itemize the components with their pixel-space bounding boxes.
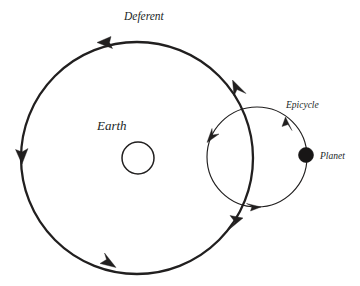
epicycle-label: Epicycle	[285, 100, 319, 110]
deferent-label: Deferent	[123, 10, 165, 23]
planet-dot	[299, 148, 314, 163]
earth-label: Earth	[96, 118, 127, 133]
epicycle-orbit-group	[207, 107, 307, 211]
epicycle-arrowhead-bottom	[247, 204, 262, 212]
earth-circle	[122, 142, 154, 174]
deferent-arrowhead-bottom	[100, 253, 116, 268]
epicycle-deferent-figure: Deferent Earth Epicycle Planet	[0, 0, 360, 286]
epicycle-circle	[207, 107, 307, 207]
deferent-arrowhead-upper-right	[233, 80, 247, 96]
diagram-canvas: Deferent Earth Epicycle Planet	[0, 0, 360, 286]
epicycle-arrowhead-left	[207, 129, 219, 143]
deferent-arrowhead-lower-right	[229, 216, 244, 231]
epicycle-arrowhead-upper-right	[282, 117, 292, 131]
planet-label: Planet	[319, 151, 345, 161]
